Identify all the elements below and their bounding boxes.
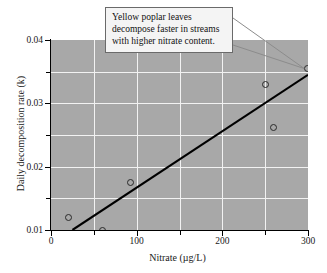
y-axis-tick-label: 0.01 bbox=[1, 225, 43, 235]
data-point bbox=[304, 65, 308, 72]
x-axis-minor-tick bbox=[265, 231, 266, 235]
data-point bbox=[65, 214, 72, 221]
x-axis-tick-label: 300 bbox=[288, 236, 327, 246]
scatter-chart-figure: 0.010.020.030.040100200300 Nitrate (µg/L… bbox=[0, 0, 327, 273]
y-axis-title-text: Daily decomposition rate (k) bbox=[15, 76, 26, 191]
y-axis-minor-tick bbox=[46, 198, 50, 199]
annotation-line-3: with higher nitrate content. bbox=[112, 35, 227, 47]
x-axis-minor-tick bbox=[94, 231, 95, 235]
y-axis-title: Daily decomposition rate (k) bbox=[15, 44, 26, 224]
annotation-callout: Yellow poplar leaves decompose faster in… bbox=[105, 7, 233, 53]
y-axis-tick bbox=[45, 40, 50, 41]
x-axis-tick-label: 200 bbox=[202, 236, 242, 246]
data-point bbox=[262, 81, 269, 88]
y-axis-line bbox=[50, 39, 51, 231]
x-axis-tick-label: 100 bbox=[117, 236, 157, 246]
y-axis-minor-tick bbox=[46, 72, 50, 73]
x-axis-title: Nitrate (µg/L) bbox=[0, 252, 327, 263]
annotation-line-2: decompose faster in streams bbox=[112, 23, 227, 35]
x-axis-title-text: Nitrate (µg/L) bbox=[149, 252, 206, 263]
trend-line bbox=[51, 40, 308, 230]
plot-area bbox=[51, 40, 308, 230]
x-axis-minor-tick bbox=[180, 231, 181, 235]
y-axis-minor-tick bbox=[46, 135, 50, 136]
y-axis-tick bbox=[45, 103, 50, 104]
annotation-line-1: Yellow poplar leaves bbox=[112, 11, 227, 23]
y-axis-tick bbox=[45, 167, 50, 168]
x-axis-tick-label: 0 bbox=[31, 236, 71, 246]
y-axis-tick bbox=[45, 230, 50, 231]
